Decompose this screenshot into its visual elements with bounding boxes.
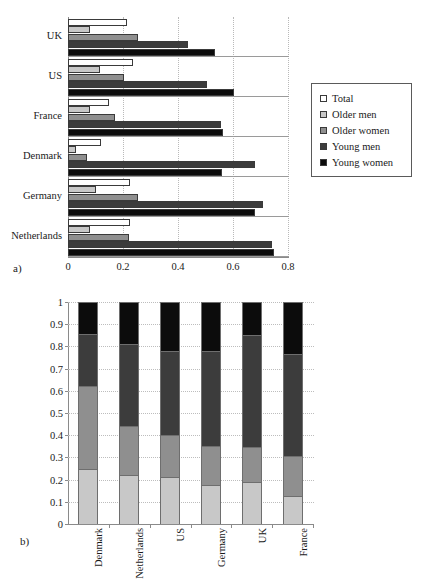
panel-b-segment xyxy=(160,302,180,351)
panel-b-bar-denmark xyxy=(78,302,98,524)
panel-b-y-tick-label: 0.1 xyxy=(50,496,63,507)
panel-b-segment xyxy=(201,485,221,524)
panel-b-segment xyxy=(283,456,303,496)
panel-a-category-label: France xyxy=(33,110,62,121)
panel-b-y-tick-label: 1 xyxy=(58,297,63,308)
legend-item-label: Older men xyxy=(332,109,377,120)
panel-b-y-tick-label: 0.9 xyxy=(50,319,63,330)
panel-b-y-tick-label: 0.3 xyxy=(50,452,63,463)
panel-b-y-tick-mark xyxy=(65,391,68,392)
panel-a-category-label: Netherlands xyxy=(11,230,62,241)
legend-item-label: Total xyxy=(332,93,353,104)
panel-a-bar xyxy=(68,41,188,48)
panel-a-bar xyxy=(68,226,90,233)
panel-a-bar xyxy=(68,201,263,208)
panel-b-gridline xyxy=(68,457,314,458)
panel-b-segment xyxy=(78,302,98,334)
panel-b-y-tick-mark xyxy=(65,457,68,458)
panel-a-bar xyxy=(68,106,90,113)
panel-b-x-tick-mark xyxy=(109,524,110,528)
panel-a-group-denmark: Denmark xyxy=(68,137,288,177)
panel-b-y-tick-mark xyxy=(65,480,68,481)
panel-a-bar xyxy=(68,81,207,88)
panel-b-bar-germany xyxy=(201,302,221,524)
panel-b-stacked-bar-chart: 00.10.20.30.40.50.60.70.80.91 DenmarkNet… xyxy=(0,290,421,584)
panel-b-segment xyxy=(78,469,98,525)
panel-b-segment xyxy=(160,351,180,435)
panel-b-y-tick-mark xyxy=(65,369,68,370)
panel-b-y-tick-mark xyxy=(65,324,68,325)
panel-a-bar xyxy=(68,89,234,96)
panel-a-bar xyxy=(68,66,100,73)
panel-a-bar xyxy=(68,209,255,216)
panel-b-x-tick-mark xyxy=(191,524,192,528)
panel-b-x-tick-label: Netherlands xyxy=(134,528,145,579)
panel-b-y-tick-mark xyxy=(65,346,68,347)
panel-a-plot-area: UKUSFranceDenmarkGermanyNetherlands 00.2… xyxy=(68,17,288,257)
panel-b-segment xyxy=(242,335,262,447)
panel-b-x-tick-mark xyxy=(150,524,151,528)
panel-b-y-tick-label: 0.6 xyxy=(50,385,63,396)
panel-a-group-separator xyxy=(68,256,289,257)
panel-b-y-tick-mark xyxy=(65,502,68,503)
panel-b-x-tick-mark xyxy=(313,524,314,528)
panel-b-bar-uk xyxy=(242,302,262,524)
panel-b-segment xyxy=(160,435,180,477)
panel-a-x-tick-label: 0.2 xyxy=(116,261,129,272)
panel-b-segment xyxy=(242,447,262,481)
panel-b-y-tick-mark xyxy=(65,302,68,303)
panel-a-bar xyxy=(68,249,274,256)
panel-b-segment xyxy=(119,302,139,344)
panel-a-x-tick-label: 0.4 xyxy=(171,261,184,272)
panel-b-y-tick-mark xyxy=(65,524,68,525)
panel-a-category-label: US xyxy=(49,70,62,81)
panel-a-bar xyxy=(68,186,96,193)
panel-b-y-tick-mark xyxy=(65,435,68,436)
panel-a-bar xyxy=(68,169,222,176)
panel-a-bar xyxy=(68,139,101,146)
panel-b-y-tick-label: 0.4 xyxy=(50,430,63,441)
panel-b-x-tick-label: Germany xyxy=(216,528,227,567)
panel-b-y-tick-label: 0.5 xyxy=(50,408,63,419)
panel-b-bar-france xyxy=(283,302,303,524)
panel-b-x-tick-label: France xyxy=(298,528,309,557)
legend-item-label: Young men xyxy=(332,141,380,152)
panel-b-gridline xyxy=(68,302,314,303)
panel-a-bar xyxy=(68,194,138,201)
panel-a-category-label: Germany xyxy=(23,190,62,201)
panel-b-y-tick-label: 0.2 xyxy=(50,474,63,485)
legend: TotalOlder menOlder womenYoung menYoung … xyxy=(311,83,412,177)
panel-a-bar xyxy=(68,26,90,33)
panel-b-bar-us xyxy=(160,302,180,524)
panel-a-x-tick-label: 0.8 xyxy=(281,261,294,272)
legend-item-older-women: Older women xyxy=(320,122,404,138)
panel-b-gridline xyxy=(68,435,314,436)
panel-a-bar xyxy=(68,179,130,186)
panel-b-x-tick-label: US xyxy=(175,528,186,541)
panel-b-segment xyxy=(119,344,139,426)
panel-b-label: b) xyxy=(20,535,29,547)
panel-b-x-tick-mark xyxy=(272,524,273,528)
panel-a-group-germany: Germany xyxy=(68,177,288,217)
panel-a-bar xyxy=(68,59,133,66)
panel-b-plot-area: 00.10.20.30.40.50.60.70.80.91 DenmarkNet… xyxy=(68,302,313,524)
legend-item-label: Older women xyxy=(332,125,389,136)
panel-b-segment xyxy=(242,302,262,335)
panel-b-y-tick-label: 0 xyxy=(58,519,63,530)
panel-a-gridline xyxy=(288,17,289,257)
panel-b-x-tick-label: UK xyxy=(257,528,268,543)
panel-a-bar xyxy=(68,161,255,168)
panel-b-segment xyxy=(78,386,98,468)
panel-b-bar-netherlands xyxy=(119,302,139,524)
panel-b-segment xyxy=(201,446,221,485)
panel-a-bar xyxy=(68,234,129,241)
legend-swatch-icon xyxy=(320,143,327,150)
legend-swatch-icon xyxy=(320,127,327,134)
panel-a-bar xyxy=(68,114,115,121)
panel-b-y-tick-mark xyxy=(65,413,68,414)
panel-a-bar xyxy=(68,241,272,248)
panel-a-group-us: US xyxy=(68,57,288,97)
panel-b-segment xyxy=(283,302,303,354)
panel-a-bar xyxy=(68,121,221,128)
panel-a-label: a) xyxy=(13,262,22,274)
